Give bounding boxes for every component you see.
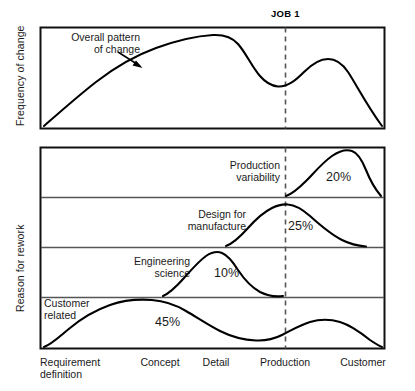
band-label-customer-related: Customer related [44,298,124,321]
overall-pattern-callout-line1: Overall pattern [71,31,140,43]
x-tick-production: Production [248,357,322,369]
x-tick-line1: Production [260,356,310,368]
percent-label-design-for-manufacture: 25% [288,219,313,233]
figure-vector-layer [0,0,415,391]
x-tick-line1: Concept [140,356,179,368]
rework-frequency-figure: Frequency of change Reason for rework JO… [0,0,415,391]
band-label-line2: manufacture [188,220,246,232]
band-label-design-for-manufacture: Design for manufacture [160,209,246,232]
band-label-line1: Engineering [134,255,190,267]
percent-label-production-variability: 20% [326,170,351,184]
band-label-line2: related [44,309,76,321]
overall-pattern-callout-line2: of change [94,43,140,55]
band-label-production-variability: Production variability [198,160,280,183]
bottom-panel-y-axis-title: Reason for rework [14,225,26,312]
x-tick-line2: definition [40,368,82,380]
x-tick-line1: Customer [340,356,386,368]
band-label-line2: variability [236,171,280,183]
x-tick-customer: Customer [330,357,396,369]
band-label-engineering-science: Engineering science [110,256,190,279]
band-label-line2: science [154,267,190,279]
top-panel-y-axis-title: Frequency of change [14,25,26,126]
percent-label-engineering-science: 10% [214,266,239,280]
band-label-line1: Design for [198,208,246,220]
band-label-line1: Customer [44,297,90,309]
x-tick-line1: Detail [203,356,230,368]
x-tick-concept: Concept [130,357,190,369]
x-tick-requirement-definition: Requirement definition [40,357,100,380]
percent-label-customer-related: 45% [155,315,180,329]
x-tick-line1: Requirement [40,356,100,368]
x-tick-detail: Detail [192,357,240,369]
overall-pattern-callout: Overall pattern of change [58,32,140,55]
job-1-milestone-label: JOB 1 [271,8,300,19]
callout-arrow-head [133,61,143,69]
band-label-line1: Production [230,159,280,171]
